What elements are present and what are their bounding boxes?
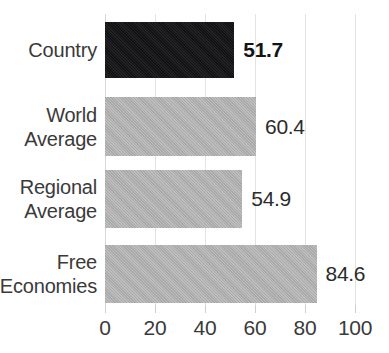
category-label-0: Country xyxy=(28,38,97,62)
category-label-2: Regional Average xyxy=(20,175,97,223)
tick-mark-60 xyxy=(255,305,256,313)
x-tick-label-0: 0 xyxy=(99,316,110,340)
category-label-3: Free Economies xyxy=(0,250,97,298)
bar-3[interactable] xyxy=(105,245,317,303)
bar-0[interactable] xyxy=(105,22,234,78)
value-label-0: 51.7 xyxy=(243,38,283,62)
bar-2[interactable] xyxy=(105,170,242,228)
x-tick-label-20: 20 xyxy=(144,316,167,340)
tick-mark-40 xyxy=(205,305,206,313)
bar-1[interactable] xyxy=(105,97,256,156)
value-label-1: 60.4 xyxy=(265,115,305,139)
value-label-3: 84.6 xyxy=(326,262,366,286)
tick-mark-100 xyxy=(355,305,356,313)
x-tick-label-100: 100 xyxy=(338,316,372,340)
tick-mark-20 xyxy=(155,305,156,313)
x-tick-label-80: 80 xyxy=(294,316,317,340)
x-tick-label-60: 60 xyxy=(244,316,267,340)
category-label-1: World Average xyxy=(24,103,97,151)
x-tick-label-40: 40 xyxy=(194,316,217,340)
tick-mark-80 xyxy=(305,305,306,313)
plot-area xyxy=(105,0,355,310)
bar-chart: CountryWorld AverageRegional AverageFree… xyxy=(0,0,389,353)
value-label-2: 54.9 xyxy=(251,187,291,211)
tick-mark-0 xyxy=(105,305,106,313)
